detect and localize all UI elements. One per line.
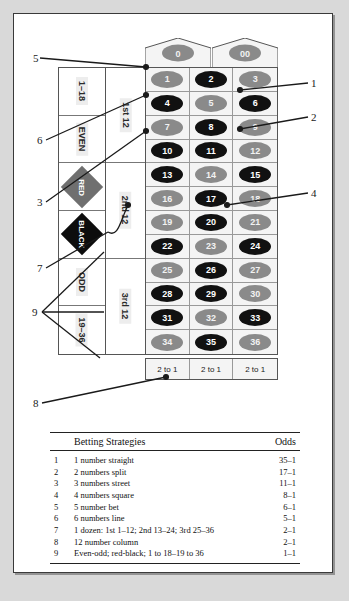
dozen-label: 2nd 12 <box>119 192 131 229</box>
column-bet-3[interactable]: 2 to 1 <box>233 359 277 379</box>
number-label: 34 <box>151 334 183 351</box>
number-cell[interactable]: 9 <box>233 116 277 140</box>
number-cell[interactable]: 1 <box>146 68 190 92</box>
number-cell[interactable]: 12 <box>233 140 277 164</box>
zero-row: 0 00 <box>145 38 278 68</box>
number-label: 15 <box>239 166 271 183</box>
dozen-bet-2nd[interactable]: 2nd 12 <box>106 163 145 258</box>
strategy-description: 2 numbers split <box>74 466 256 478</box>
outside-bet-black[interactable]: BLACK <box>59 211 105 259</box>
number-cell[interactable]: 10 <box>146 140 190 164</box>
number-cell[interactable]: 8 <box>190 116 234 140</box>
number-cell[interactable]: 23 <box>190 235 234 259</box>
number-cell[interactable]: 21 <box>233 211 277 235</box>
number-cell[interactable]: 4 <box>146 92 190 116</box>
number-cell[interactable]: 27 <box>233 259 277 283</box>
dozen-bet-1st[interactable]: 1st 12 <box>106 68 145 163</box>
number-cell[interactable]: 2 <box>190 68 234 92</box>
number-label: 9 <box>239 119 271 136</box>
number-cell[interactable]: 35 <box>190 330 234 354</box>
strategy-odds: 6–1 <box>256 501 300 513</box>
strategy-index: 3 <box>50 478 74 490</box>
strategy-index: 6 <box>50 513 74 525</box>
dozen-bet-3rd[interactable]: 3rd 12 <box>106 259 145 354</box>
callout-6: 6 <box>37 135 43 146</box>
number-cell[interactable]: 26 <box>190 259 234 283</box>
number-cell[interactable]: 24 <box>233 235 277 259</box>
number-cell[interactable]: 28 <box>146 283 190 307</box>
number-label: 24 <box>239 238 271 255</box>
number-label: 14 <box>195 166 227 183</box>
column-bet-1[interactable]: 2 to 1 <box>146 359 190 379</box>
number-cell[interactable]: 31 <box>146 306 190 330</box>
number-cell[interactable]: 22 <box>146 235 190 259</box>
roulette-layout: 0 00 1–18 EVEN RED BLACK ODD <box>58 38 278 400</box>
number-label: 4 <box>151 95 183 112</box>
number-label: 8 <box>195 119 227 136</box>
strategy-description: 1 dozen: 1st 1–12; 2nd 13–24; 3rd 25–36 <box>74 525 256 537</box>
table-header-spacer <box>50 433 74 451</box>
number-cell[interactable]: 14 <box>190 163 234 187</box>
dozens-column: 1st 12 2nd 12 3rd 12 <box>105 67 146 355</box>
number-cell[interactable]: 6 <box>233 92 277 116</box>
outside-bet-19-36[interactable]: 19–36 <box>59 306 105 354</box>
number-cell[interactable]: 3 <box>233 68 277 92</box>
number-label: 21 <box>239 214 271 231</box>
number-cell[interactable]: 11 <box>190 140 234 164</box>
number-label: 13 <box>151 166 183 183</box>
number-label: 10 <box>151 142 183 159</box>
zero-cell-00[interactable]: 00 <box>212 38 278 68</box>
number-label: 32 <box>195 309 227 326</box>
table-row: 11 number straight35–1 <box>50 451 300 467</box>
number-label: 23 <box>195 238 227 255</box>
strategy-odds: 2–1 <box>256 536 300 548</box>
outside-bet-even[interactable]: EVEN <box>59 116 105 164</box>
number-cell[interactable]: 18 <box>233 187 277 211</box>
number-cell[interactable]: 20 <box>190 211 234 235</box>
table-row: 9Even-odd; red-black; 1 to 18–19 to 361–… <box>50 548 300 560</box>
strategy-odds: 1–1 <box>256 548 300 560</box>
number-label: 20 <box>195 214 227 231</box>
number-cell[interactable]: 30 <box>233 283 277 307</box>
number-cell[interactable]: 33 <box>233 306 277 330</box>
outside-bet-label: BLACK <box>78 220 87 248</box>
number-cell[interactable]: 15 <box>233 163 277 187</box>
number-label: 17 <box>195 190 227 207</box>
number-cell[interactable]: 25 <box>146 259 190 283</box>
strategy-description: 3 numbers street <box>74 478 256 490</box>
strategy-odds: 11–1 <box>256 478 300 490</box>
strategy-index: 9 <box>50 548 74 560</box>
outside-bet-1-18[interactable]: 1–18 <box>59 68 105 116</box>
zero-label: 0 <box>162 45 194 62</box>
number-label: 28 <box>151 285 183 302</box>
table-row: 33 numbers street11–1 <box>50 478 300 490</box>
number-cell[interactable]: 19 <box>146 211 190 235</box>
strategy-odds: 8–1 <box>256 490 300 502</box>
number-cell[interactable]: 17 <box>190 187 234 211</box>
number-grid: 1234567891011121314151617181920212223242… <box>145 67 278 355</box>
table-row: 44 numbers square8–1 <box>50 490 300 502</box>
number-label: 2 <box>195 71 227 88</box>
table-row: 812 number column2–1 <box>50 536 300 548</box>
number-cell[interactable]: 7 <box>146 116 190 140</box>
number-label: 29 <box>195 285 227 302</box>
number-label: 35 <box>195 334 227 351</box>
number-cell[interactable]: 13 <box>146 163 190 187</box>
outside-bet-red[interactable]: RED <box>59 163 105 211</box>
callout-7: 7 <box>37 263 43 274</box>
zero-cell-0[interactable]: 0 <box>145 38 211 68</box>
strategy-index: 4 <box>50 490 74 502</box>
number-cell[interactable]: 29 <box>190 283 234 307</box>
strategy-odds: 2–1 <box>256 525 300 537</box>
outside-bet-odd[interactable]: ODD <box>59 259 105 307</box>
column-bet-2[interactable]: 2 to 1 <box>190 359 234 379</box>
number-cell[interactable]: 34 <box>146 330 190 354</box>
strategy-description: 6 numbers line <box>74 513 256 525</box>
strategy-index: 7 <box>50 525 74 537</box>
number-cell[interactable]: 32 <box>190 306 234 330</box>
number-cell[interactable]: 5 <box>190 92 234 116</box>
number-cell[interactable]: 16 <box>146 187 190 211</box>
number-cell[interactable]: 36 <box>233 330 277 354</box>
outside-bet-label: RED <box>77 178 86 195</box>
strategy-description: 1 number straight <box>74 451 256 467</box>
